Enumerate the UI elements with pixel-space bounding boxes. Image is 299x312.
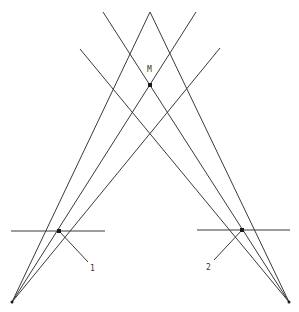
point-m: [148, 83, 152, 87]
diagram-canvas: M 1 2: [0, 0, 299, 312]
line-left-to-outer-right: [12, 48, 220, 302]
label-2: 2: [206, 264, 211, 272]
vertex-left-base: [11, 301, 14, 304]
line-right-to-apex: [150, 12, 289, 302]
line-pointer-2: [214, 230, 242, 260]
vertex-right-base: [288, 301, 291, 304]
label-m: M: [147, 66, 152, 74]
line-left-to-apex: [12, 12, 150, 302]
label-1: 1: [90, 265, 95, 273]
point-p1: [57, 229, 61, 233]
line-right-to-outer-left: [80, 49, 289, 302]
point-p2: [240, 228, 244, 232]
line-pointer-1: [59, 231, 88, 262]
line-left-to-top-right: [12, 12, 196, 302]
diagram-svg: [0, 0, 299, 312]
